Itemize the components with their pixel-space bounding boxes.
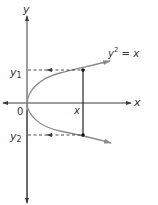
dashed-arrow-y2	[46, 133, 52, 137]
y1-subscript: 1	[17, 71, 22, 80]
point-lower	[81, 133, 85, 137]
y-axis-label: y	[22, 3, 30, 16]
origin-label: 0	[17, 106, 23, 117]
parabola-diagram: y x 0 x y1 y2 y2 = x	[0, 0, 158, 205]
point-upper	[81, 68, 85, 72]
equation-label: y2 = x	[107, 46, 139, 59]
y1-label: y1	[9, 66, 22, 80]
dashed-arrow-y1	[46, 68, 52, 72]
x-axis-label: x	[133, 96, 141, 109]
y2-label: y2	[9, 130, 22, 144]
parabola-upper-branch	[27, 61, 110, 103]
parabola-lower-branch	[27, 103, 111, 143]
x-point-label: x	[73, 105, 80, 116]
y2-subscript: 2	[17, 135, 22, 144]
equation-rest: = x	[118, 48, 139, 59]
